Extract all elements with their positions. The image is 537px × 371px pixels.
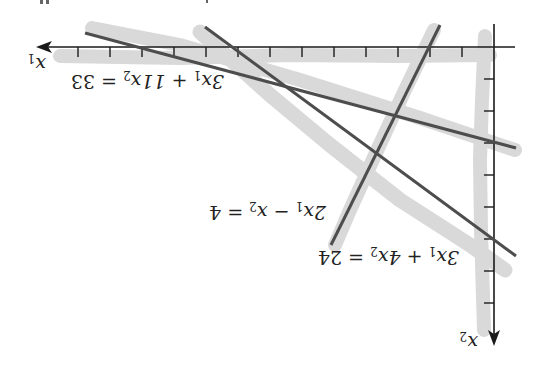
top-edge-artifacts bbox=[40, 0, 208, 4]
label-constraint-3x1-11x2-33: 3x1 + 11x2 = 33 bbox=[71, 68, 224, 93]
axis-label-x2: x 2 bbox=[459, 329, 478, 354]
lp-feasible-region-diagram: x 1 x 2 3x1 + 11x2 = 33 2x1 − x2 = 4 3x1… bbox=[0, 0, 537, 371]
svg-text:3x1 + 11x2 = 33: 3x1 + 11x2 = 33 bbox=[71, 68, 224, 93]
svg-text:x: x bbox=[467, 332, 478, 354]
label-constraint-3x1-4x2-24: 3x1 + 4x2 = 24 bbox=[318, 244, 459, 269]
axis-label-x1: x 1 bbox=[27, 51, 46, 76]
label-constraint-2x1-x2-4: 2x1 − x2 = 4 bbox=[209, 199, 327, 224]
svg-text:2: 2 bbox=[459, 329, 467, 343]
svg-text:2x1 − x2 = 4: 2x1 − x2 = 4 bbox=[209, 199, 327, 224]
svg-text:3x1 + 4x2 = 24: 3x1 + 4x2 = 24 bbox=[318, 244, 459, 269]
svg-text:x: x bbox=[35, 54, 46, 76]
svg-text:1: 1 bbox=[27, 51, 35, 65]
